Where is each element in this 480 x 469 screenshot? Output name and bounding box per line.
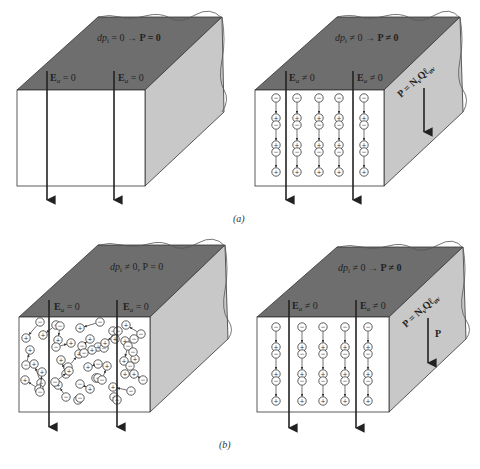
- plus-sign: +: [273, 370, 278, 377]
- panel-a-left: dpi = 0 → P = 0 Ea = 0 Ea = 0: [17, 11, 227, 200]
- plus-sign: +: [273, 114, 278, 121]
- minus-sign: −: [138, 330, 143, 337]
- minus-sign: −: [342, 323, 347, 330]
- minus-sign: −: [342, 350, 347, 357]
- front-face: [17, 90, 145, 186]
- plus-sign: +: [104, 362, 109, 369]
- minus-sign: −: [77, 380, 82, 387]
- plus-sign: +: [361, 141, 366, 148]
- minus-sign: −: [95, 360, 100, 367]
- plus-sign: +: [361, 168, 366, 175]
- plus-sign: +: [87, 385, 92, 392]
- minus-sign: −: [299, 323, 304, 330]
- minus-sign: −: [299, 350, 304, 357]
- minus-sign: −: [365, 350, 370, 357]
- plus-sign: +: [365, 397, 370, 404]
- minus-sign: −: [342, 377, 347, 384]
- minus-sign: −: [320, 323, 325, 330]
- minus-sign: −: [336, 121, 341, 128]
- minus-sign: −: [99, 376, 104, 383]
- minus-sign: −: [316, 94, 321, 101]
- minus-sign: −: [273, 323, 278, 330]
- plus-sign: +: [39, 368, 44, 375]
- minus-sign: −: [336, 94, 341, 101]
- plus-sign: +: [87, 335, 92, 342]
- minus-sign: −: [316, 121, 321, 128]
- minus-sign: −: [81, 349, 86, 356]
- minus-sign: −: [23, 361, 28, 368]
- plus-sign: +: [299, 397, 304, 404]
- plus-sign: +: [336, 141, 341, 148]
- plus-sign: +: [123, 321, 128, 328]
- minus-sign: −: [294, 94, 299, 101]
- panel-b-left: dpi ≠ 0, P = 0 Ea = 0 Ea = 0 +−+−+−+−+−+…: [19, 239, 232, 427]
- minus-sign: −: [63, 393, 68, 400]
- plus-sign: +: [110, 383, 115, 390]
- plus-sign: +: [22, 376, 27, 383]
- minus-sign: −: [320, 377, 325, 384]
- minus-sign: −: [79, 342, 84, 349]
- minus-sign: −: [52, 378, 57, 385]
- plus-sign: +: [273, 141, 278, 148]
- minus-sign: −: [299, 377, 304, 384]
- plus-sign: +: [342, 343, 347, 350]
- minus-sign: −: [273, 121, 278, 128]
- plus-sign: +: [27, 346, 32, 353]
- plus-sign: +: [336, 168, 341, 175]
- plus-sign: +: [361, 114, 366, 121]
- minus-sign: −: [294, 148, 299, 155]
- minus-sign: −: [37, 318, 42, 325]
- plus-sign: +: [299, 370, 304, 377]
- polarization-diagram: dpi = 0 → P = 0 Ea = 0 Ea = 0 dpi ≠ 0 → …: [0, 0, 480, 469]
- plus-sign: +: [342, 370, 347, 377]
- plus-sign: +: [66, 367, 71, 374]
- plus-sign: +: [102, 339, 107, 346]
- plus-sign: +: [122, 370, 127, 377]
- plus-sign: +: [294, 168, 299, 175]
- minus-sign: −: [273, 94, 278, 101]
- minus-sign: −: [365, 377, 370, 384]
- caption-a: (a): [233, 213, 245, 225]
- plus-sign: +: [58, 356, 63, 363]
- minus-sign: −: [273, 350, 278, 357]
- minus-sign: −: [140, 376, 145, 383]
- minus-sign: −: [294, 121, 299, 128]
- plus-sign: +: [273, 343, 278, 350]
- minus-sign: −: [361, 121, 366, 128]
- plus-sign: +: [365, 343, 370, 350]
- plus-sign: +: [131, 370, 136, 377]
- plus-sign: +: [336, 114, 341, 121]
- plus-sign: +: [320, 397, 325, 404]
- plus-sign: +: [85, 363, 90, 370]
- plus-sign: +: [121, 357, 126, 364]
- polarization-arrow-label: P: [435, 328, 441, 339]
- plus-sign: +: [316, 168, 321, 175]
- plus-sign: +: [68, 339, 73, 346]
- plus-sign: +: [316, 141, 321, 148]
- minus-sign: −: [361, 148, 366, 155]
- plus-sign: +: [23, 334, 28, 341]
- plus-sign: +: [31, 360, 36, 367]
- minus-sign: −: [130, 348, 135, 355]
- minus-sign: −: [316, 148, 321, 155]
- minus-sign: −: [361, 94, 366, 101]
- plus-sign: +: [320, 343, 325, 350]
- minus-sign: −: [127, 362, 132, 369]
- minus-sign: −: [273, 148, 278, 155]
- plus-sign: +: [299, 343, 304, 350]
- minus-sign: −: [97, 318, 102, 325]
- minus-sign: −: [320, 350, 325, 357]
- plus-sign: +: [365, 370, 370, 377]
- minus-sign: −: [365, 323, 370, 330]
- plus-sign: +: [40, 331, 45, 338]
- plus-sign: +: [342, 397, 347, 404]
- panel-a-right: dpi ≠ 0 → P ≠ 0 Ea ≠ 0 Ea ≠ 0 P = NvQℓav…: [255, 11, 467, 200]
- minus-sign: −: [77, 394, 82, 401]
- minus-sign: −: [128, 387, 133, 394]
- plus-sign: +: [294, 141, 299, 148]
- plus-sign: +: [320, 370, 325, 377]
- plus-sign: +: [55, 336, 60, 343]
- plus-sign: +: [273, 168, 278, 175]
- minus-sign: −: [53, 343, 58, 350]
- minus-sign: −: [57, 322, 62, 329]
